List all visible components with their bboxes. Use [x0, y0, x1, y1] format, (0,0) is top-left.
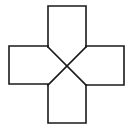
right-arm	[86, 46, 124, 85]
top-arm	[48, 6, 86, 47]
bottom-arm	[48, 85, 86, 123]
left-arm	[9, 46, 48, 84]
diagram-canvas	[0, 0, 131, 132]
cross-x-diagram	[0, 0, 131, 132]
